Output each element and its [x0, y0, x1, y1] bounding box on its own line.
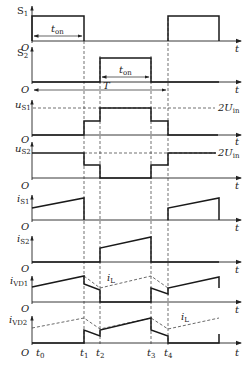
- trace-iS2: iS2 O t: [17, 233, 241, 275]
- S1-label: S1: [17, 5, 28, 18]
- trace-uS1: uS1 t 2Uin: [15, 99, 241, 147]
- uS2-waveform: [32, 153, 216, 178]
- iVD2-origin-label: O: [21, 347, 29, 358]
- uS1-waveform: [32, 108, 218, 135]
- t2-label: t2: [96, 347, 105, 360]
- uS1-t-label: t: [235, 136, 240, 147]
- iVD2-iL-label: iL: [181, 311, 189, 324]
- iS1-ramp-1: [32, 198, 84, 220]
- uS2-origin-label-top: O: [21, 134, 29, 145]
- iS1-ramp-2: [168, 198, 219, 220]
- iVD2-label: iVD2: [9, 314, 27, 327]
- uS2-t-label: t: [235, 180, 240, 191]
- iVD1-iL-label: iL: [107, 272, 115, 285]
- t0-label: t0: [36, 347, 45, 360]
- iS1-origin-label: O: [21, 221, 29, 232]
- trace-S1: S1 O t ton: [17, 5, 241, 54]
- time-marker-labels: t0 t1 t2 t3 t4: [36, 347, 173, 360]
- iS1-label: iS1: [17, 193, 29, 206]
- iS2-origin-label: O: [21, 263, 29, 274]
- uS2-2Uin-label: 2Uin: [217, 147, 240, 160]
- t3-label: t3: [147, 347, 156, 360]
- iS2-t-label: t: [235, 264, 240, 275]
- uS1-label: uS1: [15, 99, 31, 112]
- iS2-ramp: [32, 237, 219, 262]
- t1-label: t1: [80, 347, 89, 360]
- trace-S2: S2 O t ton T: [17, 47, 241, 95]
- S1-pulse-2: [168, 16, 219, 41]
- trace-iVD1: iVD1 O t iL: [10, 272, 241, 315]
- iVD1-label: iVD1: [10, 275, 28, 288]
- timing-diagram: S1 O t ton S2 O t ton T uS1 t 2Uin O uS2…: [0, 0, 249, 366]
- iVD1-iL-reference: [84, 276, 168, 288]
- S1-t-label: t: [235, 43, 240, 54]
- uS1-2Uin-label: 2Uin: [217, 102, 240, 115]
- uS2-origin-label: O: [21, 180, 29, 191]
- iVD2-t-label: t: [235, 347, 240, 358]
- trace-iVD2: iVD2 O t iL: [9, 311, 241, 358]
- iVD1-origin-label: O: [21, 303, 29, 314]
- S1-ton-label: ton: [51, 23, 64, 36]
- iVD1-t-label: t: [235, 304, 240, 315]
- trace-uS2: O uS2 O t 2Uin: [15, 134, 241, 191]
- iS2-label: iS2: [17, 233, 29, 246]
- S2-ton-label: ton: [119, 64, 132, 77]
- time-marker-lines: [84, 18, 168, 345]
- iVD1-waveform: [32, 276, 219, 302]
- t4-label: t4: [164, 347, 173, 360]
- trace-iS1: iS1 O t: [17, 193, 241, 233]
- S2-t-label: t: [235, 84, 240, 95]
- iS1-t-label: t: [235, 222, 240, 233]
- S2-origin-label: O: [21, 84, 29, 95]
- iVD2-waveform: [32, 318, 219, 343]
